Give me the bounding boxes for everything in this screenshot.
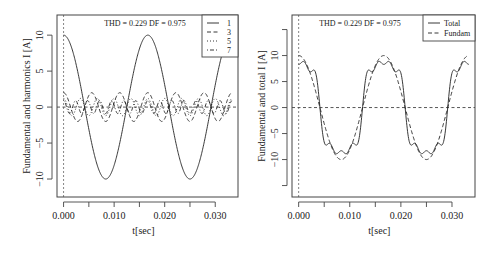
thd-df-annotation: THD = 0.229 DF = 0.975 xyxy=(319,19,401,28)
y-tick-label: −5 xyxy=(269,128,280,139)
legend: TotalFundam xyxy=(423,15,475,41)
figure: 0.0000.0100.0200.030t[sec]−10−50510Funda… xyxy=(0,0,493,254)
legend-label: Total xyxy=(444,19,461,28)
plot-panel: 0.0000.0100.0200.030t[sec]−10−50510Funda… xyxy=(256,15,475,236)
plot-area xyxy=(292,15,475,197)
y-tick-label: 0 xyxy=(269,105,280,110)
x-tick-label: 0.010 xyxy=(339,210,362,221)
x-tick-label: 0.000 xyxy=(287,210,310,221)
y-tick-label: 10 xyxy=(269,51,280,61)
y-axis: −10−50510Fundamental and total I [A] xyxy=(256,30,287,186)
y-axis-label: Fundamental and total I [A] xyxy=(256,50,267,162)
legend-label: Fundam xyxy=(444,29,471,38)
x-tick-label: 0.020 xyxy=(390,210,413,221)
x-axis: 0.0000.0100.0200.030t[sec] xyxy=(287,202,463,236)
y-tick-label: −10 xyxy=(269,152,280,168)
x-tick-label: 0.030 xyxy=(441,210,464,221)
x-axis-label: t[sec] xyxy=(368,225,390,236)
y-tick-label: 5 xyxy=(269,79,280,84)
right-plot-total: 0.0000.0100.0200.030t[sec]−10−50510Funda… xyxy=(0,0,493,254)
